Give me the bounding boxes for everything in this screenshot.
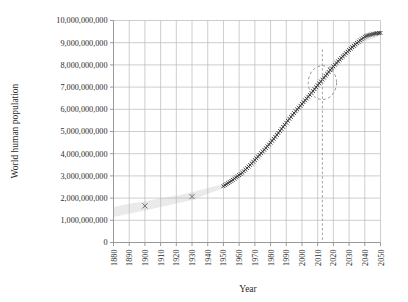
y-tick-label: 10,000,000,000	[56, 16, 107, 25]
x-tick-label: 2040	[361, 250, 370, 266]
x-tick-label: 2030	[345, 250, 354, 266]
x-tick-label: 2020	[329, 250, 338, 266]
population-chart: 01,000,000,0002,000,000,0003,000,000,000…	[0, 0, 408, 302]
x-tick-label: 1910	[157, 250, 166, 266]
x-tick-label: 1950	[219, 250, 228, 266]
x-tick-label: 1970	[251, 250, 260, 266]
x-tick-label: 1890	[125, 250, 134, 266]
x-tick-label: 2010	[314, 250, 323, 266]
y-tick-label: 2,000,000,000	[60, 194, 107, 203]
x-tick-label: 1880	[110, 250, 119, 266]
y-tick-label: 7,000,000,000	[60, 83, 107, 92]
x-axis-title: Year	[239, 284, 257, 294]
x-tick-label: 1990	[282, 250, 291, 266]
y-tick-label: 4,000,000,000	[60, 150, 107, 159]
x-tick-label: 1980	[267, 250, 276, 266]
x-tick-label: 1920	[172, 250, 181, 266]
y-tick-label: 1,000,000,000	[60, 216, 107, 225]
y-tick-label: 3,000,000,000	[60, 172, 107, 181]
y-tick-label: 6,000,000,000	[60, 105, 107, 114]
y-tick-label: 8,000,000,000	[60, 61, 107, 70]
x-tick-label: 2050	[377, 250, 386, 266]
x-tick-label: 1960	[235, 250, 244, 266]
y-tick-label: 0	[103, 238, 107, 247]
y-tick-label: 9,000,000,000	[60, 39, 107, 48]
y-tick-label: 5,000,000,000	[60, 127, 107, 136]
x-tick-label: 1930	[188, 250, 197, 266]
y-axis-title: World human population	[10, 83, 20, 178]
x-tick-label: 1940	[204, 250, 213, 266]
x-tick-label: 2000	[298, 250, 307, 266]
x-tick-label: 1900	[141, 250, 150, 266]
chart-canvas: 01,000,000,0002,000,000,0003,000,000,000…	[0, 0, 408, 302]
